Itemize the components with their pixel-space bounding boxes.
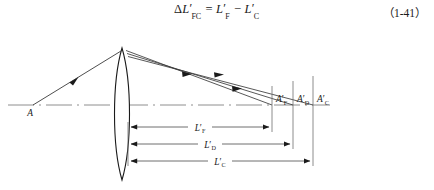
incident-ray: [33, 51, 121, 105]
lens: [115, 48, 130, 180]
dimension-LF: L′F: [131, 123, 269, 135]
equation-number: （1-41）: [383, 4, 426, 20]
optics-diagram: L′F L′D L′C A A′F A′D A′C: [0, 26, 434, 190]
dimension-LC: L′C: [131, 157, 310, 169]
image-point-label-AD: A′D: [296, 94, 310, 106]
image-point-ticks: [128, 76, 313, 166]
equation-row: ΔL′FC = L′F − L′C （1-41）: [0, 0, 434, 26]
dimension-LD: L′D: [131, 140, 290, 152]
minus-symbol: −: [234, 2, 241, 16]
object-point-label-A: A: [26, 108, 33, 118]
refracted-ray-D: [127, 54, 293, 106]
equals-symbol: =: [206, 2, 213, 16]
refracted-ray-F: [126, 51, 272, 106]
equation-expression: ΔL′FC = L′F − L′C: [0, 2, 434, 17]
rhs1-subscript: F: [225, 12, 229, 21]
rhs2-subscript: C: [254, 12, 259, 21]
lhs-subscript: FC: [191, 12, 201, 21]
image-point-label-AF: A′F: [275, 94, 288, 106]
dimension-label-LC: L′C: [213, 157, 225, 169]
dimension-label-LD: L′D: [203, 140, 216, 152]
figure-page: ΔL′FC = L′F − L′C （1-41）: [0, 0, 434, 190]
image-point-label-AC: A′C: [316, 94, 329, 106]
dimension-label-LF: L′F: [194, 123, 206, 135]
rhs2-variable: L: [245, 2, 252, 16]
